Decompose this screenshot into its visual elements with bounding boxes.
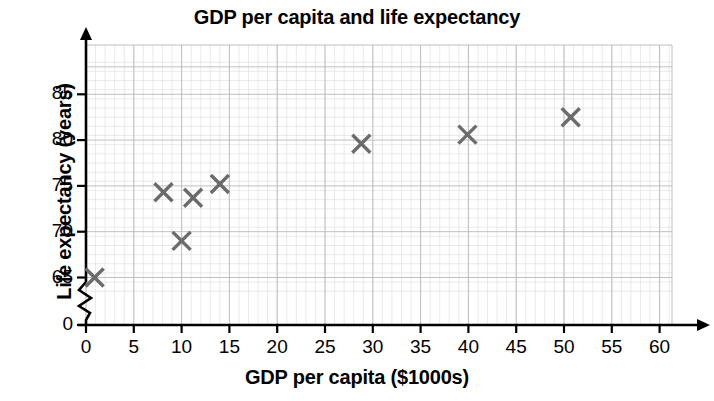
scatter-chart-figure: GDP per capita and life expectancy Life … bbox=[0, 0, 714, 401]
x-tick-label: 15 bbox=[209, 336, 249, 358]
data-markers bbox=[86, 108, 580, 286]
x-tick-label: 60 bbox=[640, 336, 680, 358]
y-tick-label: 85 bbox=[28, 82, 73, 104]
y-tick-label: 70 bbox=[28, 220, 73, 242]
y-tick-label: 75 bbox=[28, 174, 73, 196]
x-tick-label: 20 bbox=[257, 336, 297, 358]
x-tick-label: 40 bbox=[448, 336, 488, 358]
x-tick-label: 50 bbox=[544, 336, 584, 358]
data-point bbox=[352, 135, 370, 153]
x-tick-label: 5 bbox=[114, 336, 154, 358]
y-tick-label: 80 bbox=[28, 128, 73, 150]
axis-lines bbox=[78, 27, 710, 331]
x-tick-label: 10 bbox=[162, 336, 202, 358]
major-gridlines bbox=[86, 45, 672, 325]
minor-gridlines bbox=[86, 45, 672, 325]
x-tick-label: 0 bbox=[66, 336, 106, 358]
x-tick-label: 25 bbox=[305, 336, 345, 358]
data-point bbox=[458, 126, 476, 144]
x-tick-label: 30 bbox=[353, 336, 393, 358]
y-tick-label: 65 bbox=[28, 266, 73, 288]
y-tick-label: 0 bbox=[28, 313, 73, 335]
data-point bbox=[184, 189, 202, 207]
x-tick-label: 35 bbox=[401, 336, 441, 358]
x-tick-label: 55 bbox=[592, 336, 632, 358]
x-tick-label: 45 bbox=[496, 336, 536, 358]
tick-marks bbox=[77, 94, 660, 333]
